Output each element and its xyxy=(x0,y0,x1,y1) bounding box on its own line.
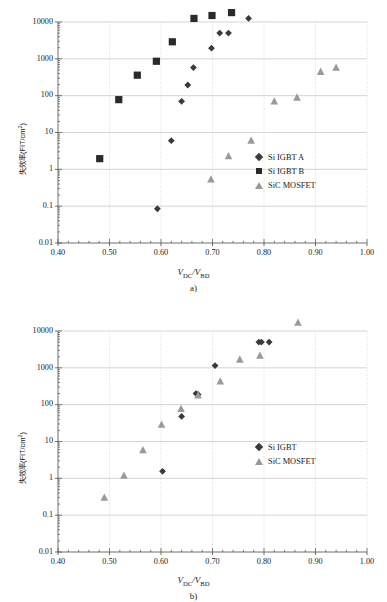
data-point xyxy=(266,339,273,346)
x-tick-label: 0.50 xyxy=(90,557,130,566)
legend-item-sic-mosfet[interactable]: SiC MOSFET xyxy=(252,178,316,192)
data-point xyxy=(293,93,301,100)
data-point xyxy=(208,12,215,19)
x-tick-label: 0.40 xyxy=(38,248,78,257)
series-a-si-igbt-a xyxy=(154,15,252,212)
data-point xyxy=(216,30,223,37)
x-axis-title: VDC/VBD xyxy=(0,575,387,587)
x-tick-label: 1.00 xyxy=(347,557,387,566)
data-point xyxy=(216,377,224,384)
data-point xyxy=(256,352,264,359)
y-tick-label: 1000 xyxy=(37,363,53,372)
data-point xyxy=(247,136,255,143)
diamond-marker-icon xyxy=(252,151,266,163)
y-axis-title-text: 失效率(FIT/cm2) xyxy=(18,432,27,484)
data-point xyxy=(159,468,166,475)
y-tick-label: 1000 xyxy=(37,54,53,63)
plot-area-a: 1000010001001010.10.010.400.500.600.700.… xyxy=(0,0,387,300)
plot-area-b: 1000010001001010.10.010.400.500.600.700.… xyxy=(0,300,387,602)
data-point xyxy=(134,72,141,79)
data-point xyxy=(332,64,340,71)
data-point xyxy=(169,38,176,45)
figure-panel-b: 1000010001001010.10.010.400.500.600.700.… xyxy=(0,300,387,602)
data-point xyxy=(101,494,109,501)
data-point xyxy=(245,15,252,22)
legend-item-sic-mosfet[interactable]: SiC MOSFET xyxy=(252,454,316,468)
y-tick-label: 10 xyxy=(45,436,53,445)
y-ticks-b xyxy=(55,331,367,555)
y-tick-label: 0.01 xyxy=(39,547,53,556)
x-tick-label: 0.80 xyxy=(244,248,284,257)
x-tick-label: 0.80 xyxy=(244,557,284,566)
x-tick-label: 0.70 xyxy=(193,557,233,566)
data-point xyxy=(96,155,103,162)
x-tick-label: 1.00 xyxy=(347,248,387,257)
data-point xyxy=(178,413,185,420)
legend-label: Si IGBT xyxy=(268,443,297,452)
data-point xyxy=(208,45,215,52)
data-point xyxy=(115,96,122,103)
data-point xyxy=(158,420,166,427)
y-tick-label: 1 xyxy=(49,473,53,482)
y-axis-title-text: 失效率(FIT/cm2) xyxy=(18,123,27,175)
legend-label: Si IGBT A xyxy=(268,153,304,162)
legend-item-si-igbt-b[interactable]: Si IGBT B xyxy=(252,164,316,178)
x-axis-title: VDC/VBD xyxy=(0,267,387,279)
data-point xyxy=(168,137,175,144)
triangle-marker-icon xyxy=(252,179,266,191)
y-tick-label: 0.01 xyxy=(39,238,53,247)
data-point xyxy=(236,355,244,362)
panel-caption: b) xyxy=(0,591,387,601)
data-point xyxy=(139,446,147,453)
data-point xyxy=(178,98,185,105)
y-tick-label: 10 xyxy=(45,127,53,136)
data-point xyxy=(228,9,235,16)
x-tick-label: 0.90 xyxy=(296,248,336,257)
y-tick-label: 0.1 xyxy=(43,510,53,519)
data-point xyxy=(225,30,232,37)
diamond-marker-icon xyxy=(252,441,266,453)
gridlines-b xyxy=(58,331,367,552)
y-tick-label: 10000 xyxy=(33,326,53,335)
legend-label: SiC MOSFET xyxy=(268,457,316,466)
data-point xyxy=(120,471,128,478)
x-tick-label: 0.50 xyxy=(90,248,130,257)
y-tick-label: 100 xyxy=(41,399,53,408)
square-marker-icon xyxy=(252,165,266,177)
x-tick-label: 0.40 xyxy=(38,557,78,566)
y-ticks-a xyxy=(55,22,367,246)
data-point xyxy=(294,319,302,326)
data-point xyxy=(317,68,325,75)
figure-panel-a: 1000010001001010.10.010.400.500.600.700.… xyxy=(0,0,387,300)
data-point xyxy=(190,64,197,71)
data-point xyxy=(153,58,160,65)
legend-b: Si IGBTSiC MOSFET xyxy=(252,440,316,468)
data-point xyxy=(271,97,279,104)
legend-label: Si IGBT B xyxy=(268,167,304,176)
x-tick-label: 0.60 xyxy=(141,557,181,566)
data-point xyxy=(207,175,215,182)
y-tick-label: 1 xyxy=(49,164,53,173)
data-point xyxy=(225,152,233,159)
legend-item-si-igbt-a[interactable]: Si IGBT A xyxy=(252,150,316,164)
y-tick-label: 0.1 xyxy=(43,201,53,210)
triangle-marker-icon xyxy=(252,455,266,467)
gridlines-a xyxy=(58,22,367,243)
legend-a: Si IGBT ASi IGBT BSiC MOSFET xyxy=(252,150,316,192)
data-point xyxy=(177,405,185,412)
panel-caption: a) xyxy=(0,283,387,293)
y-axis-title: 失效率(FIT/cm2) xyxy=(16,432,27,484)
y-axis-title: 失效率(FIT/cm2) xyxy=(16,123,27,175)
series-b-sic-mosfet xyxy=(101,319,302,501)
x-tick-label: 0.60 xyxy=(141,248,181,257)
x-tick-label: 0.90 xyxy=(296,557,336,566)
legend-label: SiC MOSFET xyxy=(268,181,316,190)
data-point xyxy=(190,15,197,22)
y-tick-label: 10000 xyxy=(33,17,53,26)
series-a-si-igbt-b xyxy=(96,9,235,162)
data-point xyxy=(184,82,191,89)
x-tick-label: 0.70 xyxy=(193,248,233,257)
y-tick-label: 100 xyxy=(41,90,53,99)
legend-item-si-igbt[interactable]: Si IGBT xyxy=(252,440,316,454)
